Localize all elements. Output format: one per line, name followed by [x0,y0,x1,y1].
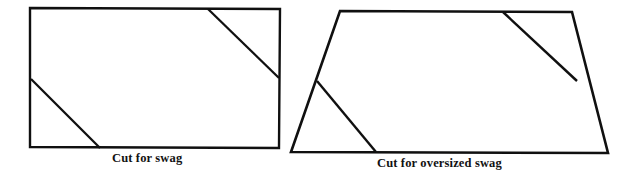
oversized-swag-trapezoid-outline [291,11,608,153]
oversized-swag-figure [291,11,608,153]
swag-lower-left-cut-line [31,79,100,148]
swag-caption: Cut for swag [112,152,182,165]
oversized-swag-caption: Cut for oversized swag [377,157,502,170]
swag-upper-right-cut-line [208,9,279,78]
swag-figure [30,8,280,148]
figure-root: Cut for swag Cut for oversized swag [0,0,629,175]
swag-rectangle-outline [30,8,280,148]
cutting-diagram-canvas [0,0,629,175]
oversized-swag-lower-left-cut-line [317,81,376,152]
oversized-swag-upper-right-cut-line [503,12,577,81]
